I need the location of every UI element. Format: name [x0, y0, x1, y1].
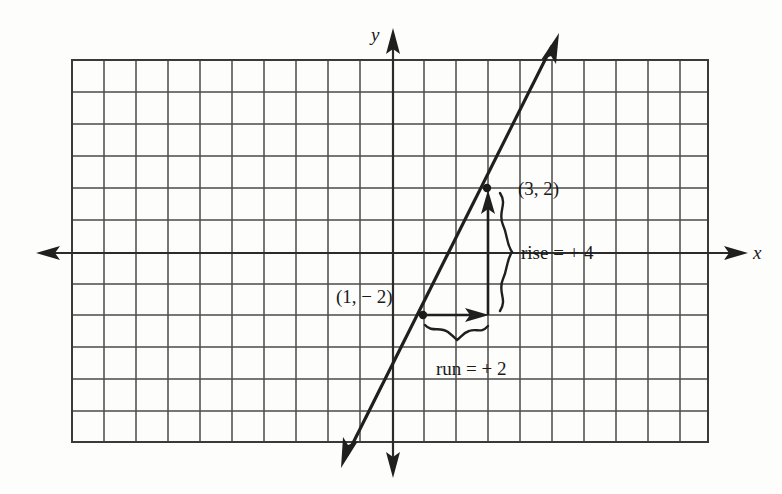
slope-figure: (3, 2) (1, − 2) rise = + 4 run = + 2 y x [0, 0, 782, 494]
grid-group [72, 60, 708, 442]
grid-vertical-lines [72, 60, 708, 442]
y-axis-label: y [369, 24, 380, 45]
point-3-2-dot [483, 184, 491, 192]
point-1-neg2-label: (1, − 2) [336, 286, 393, 308]
coordinate-plane-svg: (3, 2) (1, − 2) rise = + 4 run = + 2 y x [0, 0, 782, 494]
rise-label: rise = + 4 [521, 242, 594, 263]
point-3-2-label: (3, 2) [518, 178, 559, 200]
run-label: run = + 2 [436, 358, 507, 379]
run-measure-arrow [425, 308, 489, 322]
x-axis-label: x [752, 242, 762, 263]
